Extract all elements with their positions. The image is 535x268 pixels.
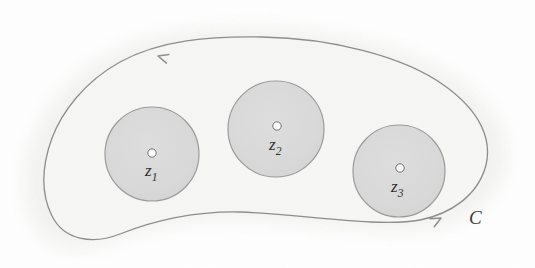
contour-diagram-figure: z1 z2 z3 C [0, 0, 535, 268]
point-z1-dot [148, 149, 156, 157]
contour-label-c: C [469, 207, 482, 228]
point-z2-dot [273, 122, 281, 130]
diagram-canvas: z1 z2 z3 C [0, 0, 535, 268]
point-z3-dot [396, 164, 404, 172]
